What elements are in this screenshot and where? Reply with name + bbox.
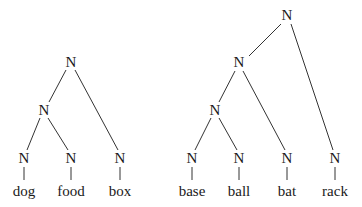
node-label: N xyxy=(66,55,77,70)
node-label: N xyxy=(210,103,221,118)
node-label: N xyxy=(282,151,293,166)
word-label: rack xyxy=(322,184,348,199)
node-label: N xyxy=(330,151,341,166)
word-label: dog xyxy=(13,184,36,199)
node-label: N xyxy=(234,55,245,70)
node-label: N xyxy=(115,151,126,166)
node-label: N xyxy=(282,8,293,23)
node-label: N xyxy=(66,151,77,166)
node-label: N xyxy=(234,151,245,166)
node-label: N xyxy=(39,103,50,118)
word-label: ball xyxy=(228,184,251,199)
word-label: food xyxy=(57,184,85,199)
tree-edges xyxy=(0,0,362,207)
word-label: bat xyxy=(278,184,296,199)
word-label: base xyxy=(179,184,206,199)
word-label: box xyxy=(109,184,132,199)
node-label: N xyxy=(19,151,30,166)
node-label: N xyxy=(187,151,198,166)
